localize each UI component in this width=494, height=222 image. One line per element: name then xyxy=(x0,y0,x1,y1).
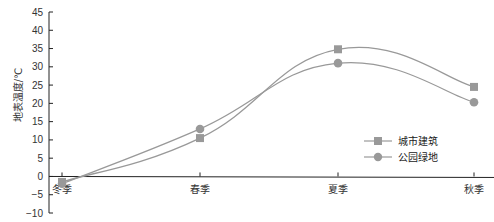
y-axis-label: 地表温度/℃ xyxy=(12,68,24,123)
legend-label: 公园绿地 xyxy=(398,151,438,163)
square-marker-icon xyxy=(374,137,382,145)
y-tick-label: 35 xyxy=(32,43,44,54)
y-tick-label: 20 xyxy=(32,98,44,109)
y-tick-label: 25 xyxy=(32,80,44,91)
x-category-label: 春季 xyxy=(190,184,210,195)
y-tick-label: 30 xyxy=(32,61,44,72)
square-marker-icon xyxy=(334,45,342,53)
circle-marker-icon xyxy=(58,179,67,188)
y-tick-label: −5 xyxy=(32,189,44,200)
y-tick-label: −10 xyxy=(26,208,43,219)
series-group xyxy=(58,45,479,188)
x-axis: 冬季春季夏季秋季 xyxy=(49,172,494,195)
x-category-label: 夏季 xyxy=(328,184,348,195)
series-city-buildings xyxy=(58,45,478,186)
y-tick-label: 5 xyxy=(37,153,43,164)
square-marker-icon xyxy=(470,83,478,91)
circle-marker-icon xyxy=(196,125,205,134)
y-tick-label: 15 xyxy=(32,116,44,127)
line-chart: 454035302520151050−5−10 冬季春季夏季秋季 地表温度/℃ … xyxy=(0,0,494,222)
legend-item-park-greenland: 公园绿地 xyxy=(364,151,438,163)
x-category-label: 秋季 xyxy=(464,183,484,195)
circle-marker-icon xyxy=(334,59,343,68)
legend: 城市建筑 公园绿地 xyxy=(364,135,438,163)
y-tick-label: 45 xyxy=(32,7,44,18)
legend-label: 城市建筑 xyxy=(398,135,438,147)
circle-marker-icon xyxy=(470,98,479,107)
square-marker-icon xyxy=(196,134,204,142)
y-tick-label: 0 xyxy=(37,171,43,182)
series-park-greenland xyxy=(58,59,479,188)
circle-marker-icon xyxy=(374,153,382,161)
y-axis: 454035302520151050−5−10 xyxy=(26,7,53,219)
y-tick-label: 40 xyxy=(32,25,44,36)
y-tick-label: 10 xyxy=(32,134,44,145)
legend-item-city-buildings: 城市建筑 xyxy=(364,135,438,147)
